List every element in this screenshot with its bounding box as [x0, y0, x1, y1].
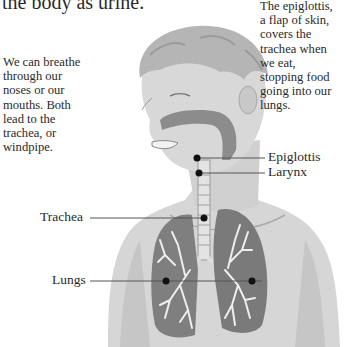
label-larynx: Larynx	[268, 165, 307, 179]
trachea-dot	[201, 215, 208, 222]
breathing-annotation: We can breathe through our noses or our …	[3, 55, 108, 154]
epiglottis-annotation: The epiglottis, a flap of skin, covers t…	[260, 0, 355, 113]
left-lung-dot	[163, 278, 170, 285]
right-lung-dot	[249, 278, 256, 285]
larynx-dot	[196, 170, 203, 177]
label-lungs: Lungs	[52, 273, 86, 287]
label-trachea: Trachea	[40, 210, 83, 224]
epiglottis-dot	[194, 155, 201, 162]
label-epiglottis: Epiglottis	[268, 150, 321, 164]
intro-text-fragment: the body as urine.	[2, 0, 144, 13]
ear	[239, 86, 257, 114]
